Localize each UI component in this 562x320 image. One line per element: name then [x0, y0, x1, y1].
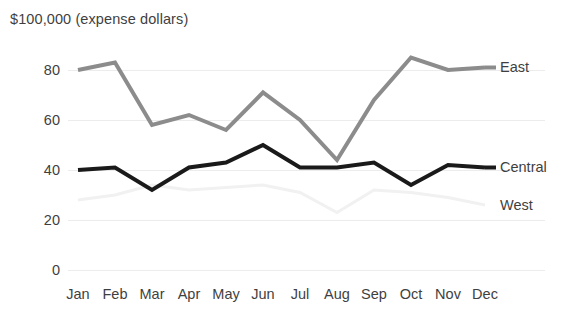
y-axis-tick-label: 0: [52, 262, 60, 278]
chart-plot-area: 020406080 EastCentralWest JanFebMarAprMa…: [0, 0, 562, 320]
series-line-central: [78, 145, 485, 190]
x-axis-tick-label-may: May: [212, 286, 240, 302]
x-axis-tick-label-aug: Aug: [324, 286, 350, 302]
series-inline-labels: EastCentralWest: [485, 59, 547, 213]
x-axis-tick-label-dec: Dec: [472, 286, 498, 302]
y-axis-ticks: 020406080: [44, 62, 60, 278]
x-axis-tick-label-mar: Mar: [140, 286, 165, 302]
x-axis-tick-label-jul: Jul: [291, 286, 310, 302]
series-label-central: Central: [500, 159, 547, 175]
line-chart: $100,000 (expense dollars) 020406080 Eas…: [0, 0, 562, 320]
x-axis-tick-label-oct: Oct: [400, 286, 423, 302]
series-label-west: West: [500, 197, 533, 213]
x-axis-tick-label-jun: Jun: [251, 286, 274, 302]
x-axis-tick-label-feb: Feb: [103, 286, 128, 302]
x-axis-ticks: JanFebMarAprMayJunJulAugSepOctNovDec: [66, 286, 498, 302]
x-axis-tick-label-jan: Jan: [66, 286, 89, 302]
series-line-east: [78, 58, 485, 161]
y-axis-tick-label: 40: [44, 162, 60, 178]
y-axis-tick-label: 60: [44, 112, 60, 128]
y-axis-tick-label: 80: [44, 62, 60, 78]
gridlines: [68, 70, 545, 270]
data-series-group: [78, 58, 485, 213]
x-axis-tick-label-nov: Nov: [435, 286, 462, 302]
series-label-east: East: [500, 59, 529, 75]
series-line-west: [78, 185, 485, 213]
y-axis-tick-label: 20: [44, 212, 60, 228]
x-axis-tick-label-sep: Sep: [361, 286, 387, 302]
x-axis-tick-label-apr: Apr: [178, 286, 201, 302]
